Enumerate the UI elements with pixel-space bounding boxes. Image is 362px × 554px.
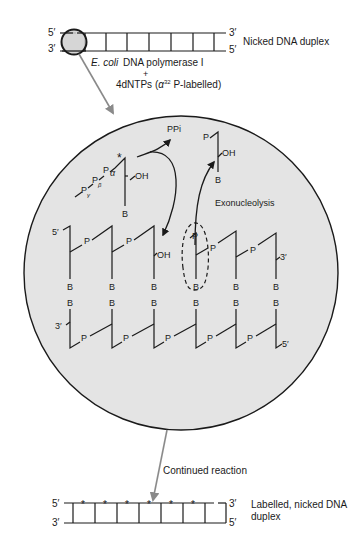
ppi-label: PPi — [167, 124, 181, 134]
svg-text:P: P — [165, 333, 171, 343]
top-duplex-5prime-left: 5′ — [48, 27, 56, 38]
lower-3prime: 3′ — [55, 321, 62, 331]
svg-text:α: α — [110, 168, 116, 178]
bottom-labelled-duplex: 5′ 3′ * * * * * * 3′ 5′ Labelled, nicked… — [52, 498, 347, 528]
svg-text:P: P — [247, 333, 253, 343]
svg-text:B: B — [151, 282, 157, 292]
svg-text:P: P — [123, 333, 129, 343]
svg-text:*: * — [103, 499, 107, 510]
pol1-nick-translation-diagram: 5′ 3′ 3′ 5′ Nicked DNA duplex E. coli DN… — [0, 0, 362, 554]
zoom-view: P γ P β P α * OH B PPi P OH B Exonucleol… — [24, 116, 338, 430]
svg-text:*: * — [169, 499, 173, 510]
svg-text:*: * — [125, 499, 129, 510]
svg-text:P: P — [81, 333, 87, 343]
svg-text:*: * — [147, 499, 151, 510]
svg-text:B: B — [233, 282, 239, 292]
svg-text:B: B — [151, 298, 157, 308]
upper-5prime: 5′ — [52, 227, 59, 237]
bottom-duplex-5prime-left: 5′ — [52, 498, 60, 509]
top-nicked-duplex: 5′ 3′ 3′ 5′ Nicked DNA duplex — [48, 27, 329, 55]
incoming-oh: OH — [135, 171, 149, 181]
radiolabel-stars: * * * * * * — [81, 499, 195, 510]
svg-text:P: P — [84, 236, 90, 246]
enzyme-name: DNA polymerase I — [123, 57, 204, 68]
svg-text:B: B — [233, 298, 239, 308]
svg-text:P: P — [126, 236, 132, 246]
nick-3prime-oh: OH — [157, 250, 171, 260]
enzyme-species: E. coli — [91, 57, 119, 68]
excised-base: B — [215, 175, 221, 185]
svg-text:B: B — [67, 282, 73, 292]
top-duplex-5prime-right: 5′ — [229, 44, 237, 55]
svg-text:*: * — [191, 499, 195, 510]
enzyme-label: E. coli DNA polymerase I — [91, 57, 204, 68]
alpha-phosphate: P — [103, 165, 109, 175]
plus-sign: + — [143, 69, 148, 79]
dntps-label: 4dNTPs (α32 P-labelled) — [116, 79, 221, 90]
svg-text:P: P — [207, 333, 213, 343]
svg-text:B: B — [193, 282, 199, 292]
exonucleolysis-label: Exonucleolysis — [215, 198, 275, 208]
svg-text:B: B — [109, 282, 115, 292]
bottom-duplex-5prime-right: 5′ — [229, 517, 237, 528]
svg-text:*: * — [81, 499, 85, 510]
radiolabel-star: * — [117, 151, 122, 165]
svg-text:B: B — [273, 282, 279, 292]
incoming-base: B — [122, 209, 128, 219]
continued-reaction-label: Continued reaction — [163, 465, 247, 476]
svg-text:B: B — [109, 298, 115, 308]
svg-text:B: B — [193, 298, 199, 308]
lower-5prime: 5′ — [282, 339, 289, 349]
bottom-duplex-label-line1: Labelled, nicked DNA — [251, 499, 347, 510]
bottom-duplex-3prime-right: 3′ — [229, 498, 237, 509]
svg-text:P: P — [250, 245, 256, 255]
upper-3prime: 3′ — [280, 252, 287, 262]
bottom-duplex-3prime-left: 3′ — [52, 517, 60, 528]
base-pair-rungs — [85, 33, 214, 51]
excised-site-p: P — [192, 231, 198, 241]
svg-text:P: P — [210, 243, 216, 253]
top-duplex-label: Nicked DNA duplex — [243, 36, 329, 47]
reagents-block: E. coli DNA polymerase I + 4dNTPs (α32 P… — [91, 57, 221, 90]
excised-oh: OH — [222, 148, 236, 158]
svg-text:β: β — [97, 182, 102, 188]
top-duplex-3prime-left: 3′ — [48, 43, 56, 54]
zoom-circle — [24, 116, 338, 430]
excised-p: P — [203, 132, 209, 142]
top-duplex-3prime-right: 3′ — [229, 27, 237, 38]
bottom-duplex-label-line2: duplex — [251, 511, 280, 522]
svg-text:B: B — [67, 298, 73, 308]
svg-text:B: B — [273, 298, 279, 308]
